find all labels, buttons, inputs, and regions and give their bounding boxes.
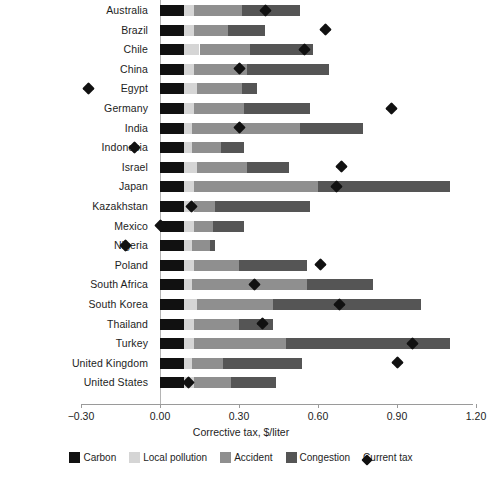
- segment-carbon: [160, 319, 184, 330]
- stacked-bar: [160, 5, 300, 16]
- segment-congestion: [221, 142, 245, 153]
- bar-row: Kazakhstan: [0, 198, 482, 215]
- x-tick: [160, 404, 161, 408]
- legend-item-accident: Accident: [220, 452, 272, 463]
- legend-item-carbon: Carbon: [69, 452, 116, 463]
- segment-carbon: [160, 279, 184, 290]
- chart-legend: CarbonLocal pollutionAccidentCongestionC…: [0, 452, 482, 463]
- segment-congestion: [247, 162, 289, 173]
- segment-localpol: [184, 162, 197, 173]
- segment-localpol: [184, 319, 195, 330]
- legend-item-localpol: Local pollution: [129, 452, 207, 463]
- segment-accident: [194, 377, 231, 388]
- segment-localpol: [184, 221, 195, 232]
- bar-row: China: [0, 61, 482, 78]
- x-tick-label: 0.30: [209, 410, 269, 422]
- country-label: Germany: [0, 100, 152, 117]
- bar-row: South Korea: [0, 296, 482, 313]
- segment-accident: [194, 181, 318, 192]
- country-label: Kazakhstan: [0, 198, 152, 215]
- country-label: Brazil: [0, 22, 152, 39]
- segment-localpol: [184, 123, 192, 134]
- x-tick: [397, 404, 398, 408]
- segment-accident: [194, 338, 286, 349]
- x-tick: [239, 404, 240, 408]
- country-label: Chile: [0, 41, 152, 58]
- segment-carbon: [160, 181, 184, 192]
- stacked-bar: [160, 299, 421, 310]
- legend-label: Local pollution: [143, 452, 207, 463]
- segment-accident: [194, 221, 212, 232]
- legend-swatch-accident: [220, 452, 231, 463]
- segment-congestion: [286, 338, 449, 349]
- segment-accident: [192, 358, 224, 369]
- segment-congestion: [273, 299, 420, 310]
- segment-localpol: [184, 279, 192, 290]
- current-tax-marker: [385, 102, 398, 115]
- segment-carbon: [160, 162, 184, 173]
- segment-localpol: [184, 299, 197, 310]
- segment-localpol: [184, 240, 192, 251]
- stacked-bar: [160, 201, 310, 212]
- bar-row: Israel: [0, 159, 482, 176]
- stacked-bar: [160, 83, 257, 94]
- segment-congestion: [244, 103, 310, 114]
- bar-row: Turkey: [0, 335, 482, 352]
- current-tax-marker: [314, 258, 327, 271]
- current-tax-marker: [335, 160, 348, 173]
- stacked-bar: [160, 377, 276, 388]
- bar-row: Poland: [0, 257, 482, 274]
- country-label: Australia: [0, 2, 152, 19]
- bar-row: Thailand: [0, 316, 482, 333]
- stacked-bar: [160, 221, 244, 232]
- segment-accident: [197, 299, 273, 310]
- segment-accident: [200, 44, 250, 55]
- segment-carbon: [160, 25, 184, 36]
- stacked-bar: [160, 103, 310, 114]
- x-axis-line: [81, 404, 473, 405]
- country-label: United States: [0, 374, 152, 391]
- country-label: Japan: [0, 178, 152, 195]
- bar-row: South Africa: [0, 276, 482, 293]
- legend-swatch-localpol: [129, 452, 140, 463]
- segment-congestion: [228, 25, 265, 36]
- stacked-bar: [160, 142, 244, 153]
- segment-congestion: [210, 240, 215, 251]
- current-tax-marker: [320, 23, 333, 36]
- segment-localpol: [184, 338, 195, 349]
- bar-row: Japan: [0, 178, 482, 195]
- bar-row: Egypt: [0, 80, 482, 97]
- segment-carbon: [160, 5, 184, 16]
- legend-swatch-carbon: [69, 452, 80, 463]
- segment-localpol: [184, 5, 195, 16]
- country-label: South Africa: [0, 276, 152, 293]
- country-label: Egypt: [0, 80, 152, 97]
- segment-localpol: [184, 103, 195, 114]
- segment-congestion: [247, 64, 329, 75]
- bar-row: India: [0, 120, 482, 137]
- country-label: Mexico: [0, 218, 152, 235]
- segment-carbon: [160, 44, 184, 55]
- segment-localpol: [184, 25, 195, 36]
- country-label: India: [0, 120, 152, 137]
- segment-accident: [197, 83, 242, 94]
- segment-accident: [194, 319, 239, 330]
- bar-row: Chile: [0, 41, 482, 58]
- country-label: United Kingdom: [0, 355, 152, 372]
- stacked-bar: [160, 44, 313, 55]
- segment-accident: [192, 123, 300, 134]
- segment-congestion: [213, 221, 245, 232]
- x-tick: [81, 404, 82, 408]
- segment-localpol: [184, 181, 195, 192]
- segment-localpol: [184, 83, 197, 94]
- stacked-bar: [160, 162, 289, 173]
- legend-label: Carbon: [83, 452, 116, 463]
- segment-localpol: [184, 64, 195, 75]
- segment-congestion: [215, 201, 310, 212]
- stacked-bar: [160, 279, 373, 290]
- segment-carbon: [160, 123, 184, 134]
- segment-carbon: [160, 377, 184, 388]
- x-tick-label: 0.00: [130, 410, 190, 422]
- segment-carbon: [160, 358, 184, 369]
- bar-row: Indonesia: [0, 139, 482, 156]
